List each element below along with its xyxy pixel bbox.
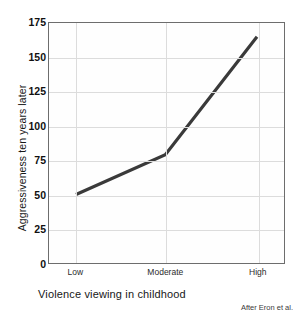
y-tick-label: 0 bbox=[16, 259, 46, 270]
x-gridline bbox=[166, 23, 167, 263]
y-tick-label: 75 bbox=[16, 155, 46, 166]
x-gridline bbox=[259, 23, 260, 263]
y-axis-tick-labels: 0255075100125150175 bbox=[14, 0, 46, 321]
y-tick-label: 175 bbox=[16, 17, 46, 28]
y-tick-label: 100 bbox=[16, 121, 46, 132]
x-tick-label: Moderate bbox=[147, 267, 183, 277]
x-axis-tick-labels: LowModerateHigh bbox=[48, 267, 285, 281]
chart-figure: Aggressiveness ten years later 025507510… bbox=[0, 0, 301, 321]
x-gridline bbox=[76, 23, 77, 263]
x-tick-label: High bbox=[249, 267, 266, 277]
y-tick-label: 150 bbox=[16, 52, 46, 63]
source-attribution: After Eron et al. bbox=[241, 303, 293, 312]
y-tick-label: 50 bbox=[16, 190, 46, 201]
plot-area bbox=[48, 22, 285, 264]
x-tick-label: Low bbox=[67, 267, 83, 277]
y-tick-label: 25 bbox=[16, 224, 46, 235]
x-axis-title: Violence viewing in childhood bbox=[38, 288, 186, 300]
y-tick-label: 125 bbox=[16, 86, 46, 97]
